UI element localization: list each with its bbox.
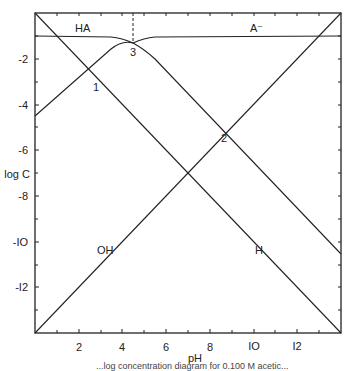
label-oh: OH [97, 244, 114, 256]
xtick-8: 8 [207, 341, 213, 353]
label-ha: HA [75, 22, 91, 34]
xtick-6: 6 [163, 341, 169, 353]
ytick-neg6: -6 [18, 144, 28, 156]
ytick-neg2: -2 [18, 53, 28, 65]
ytick-neg8: -8 [18, 190, 28, 202]
a-minus-curve [35, 36, 341, 116]
figure-caption: ...log concentration diagram for 0.100 M… [96, 361, 289, 371]
xtick-10: IO [248, 340, 260, 352]
point-3-label: 3 [130, 46, 136, 58]
point-2-label: 2 [221, 132, 227, 144]
ytick-neg10: -IO [13, 236, 29, 248]
xtick-2: 2 [76, 341, 82, 353]
label-a-minus: A⁻ [250, 22, 263, 34]
ytick-neg4: -4 [18, 99, 28, 111]
xtick-4: 4 [119, 341, 125, 353]
point-1-label: 1 [93, 81, 99, 93]
label-h: H [255, 244, 263, 256]
ytick-neg12: -I2 [15, 281, 28, 293]
y-axis-label: log C [4, 168, 30, 180]
xtick-12: I2 [292, 340, 301, 352]
ha-curve [35, 36, 341, 254]
